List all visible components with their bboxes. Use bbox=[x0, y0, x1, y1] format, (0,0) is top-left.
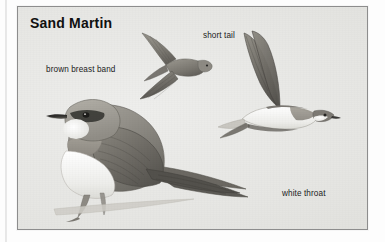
perched-bird bbox=[46, 100, 248, 223]
flying-bird-small bbox=[140, 33, 212, 99]
page-gutter-rule bbox=[5, 0, 7, 242]
illustration-stage: Sand Martin brown breast band short tail… bbox=[0, 0, 385, 242]
flying-bird-large bbox=[218, 31, 341, 138]
page-title: Sand Martin bbox=[30, 15, 112, 31]
label-white-throat: white throat bbox=[282, 189, 326, 198]
field-guide-panel: Sand Martin brown breast band short tail… bbox=[17, 6, 368, 230]
label-short-tail: short tail bbox=[203, 31, 235, 40]
label-brown-breast-band: brown breast band bbox=[46, 65, 116, 74]
